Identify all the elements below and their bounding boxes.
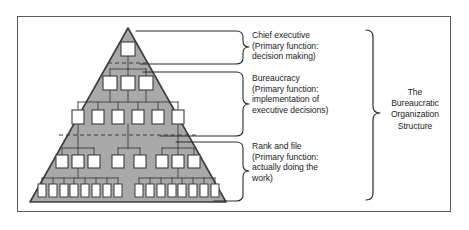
pyramid-level-1 <box>121 42 135 56</box>
org-node-box <box>121 42 135 56</box>
org-node-box <box>114 184 122 197</box>
org-node-box <box>156 155 168 168</box>
pyramid-level-2 <box>103 76 153 90</box>
org-node-box <box>112 155 124 168</box>
bracket-overall <box>366 30 380 200</box>
org-node-box <box>60 184 68 197</box>
org-node-box <box>211 184 219 197</box>
org-node-box <box>200 184 208 197</box>
org-node-box <box>72 155 84 168</box>
org-node-box <box>172 110 184 124</box>
org-node-box <box>92 184 100 197</box>
org-node-box <box>172 155 184 168</box>
org-node-box <box>188 155 200 168</box>
org-node-box <box>103 76 117 90</box>
org-node-box <box>135 184 143 197</box>
org-node-box <box>56 155 68 168</box>
org-node-box <box>92 110 104 124</box>
org-node-box <box>134 155 146 168</box>
org-node-box <box>157 184 165 197</box>
org-node-box <box>88 155 100 168</box>
bracket-chief-executive <box>136 31 249 64</box>
label-bureaucracy: Bureaucracy (Primary function: implement… <box>252 73 352 115</box>
org-node-box <box>121 76 135 90</box>
org-node-box <box>178 184 186 197</box>
org-node-box <box>146 184 154 197</box>
org-node-box <box>168 184 176 197</box>
org-node-box <box>112 110 124 124</box>
org-node-box <box>70 184 78 197</box>
org-node-box <box>189 184 197 197</box>
org-node-box <box>139 76 153 90</box>
label-chief-executive: Chief executive (Primary function: decis… <box>252 30 352 62</box>
org-node-box <box>38 184 46 197</box>
org-node-box <box>152 110 164 124</box>
org-node-box <box>49 184 57 197</box>
label-overall-title: The Bureaucratic Organization Structure <box>383 87 447 132</box>
org-node-box <box>72 110 84 124</box>
figure-container: Chief executive (Primary function: decis… <box>0 0 469 230</box>
org-node-box <box>132 110 144 124</box>
label-rank-and-file: Rank and file (Primary function: actuall… <box>252 141 352 183</box>
overall-bracket-group <box>366 30 380 200</box>
org-node-box <box>103 184 111 197</box>
org-node-box <box>81 184 89 197</box>
